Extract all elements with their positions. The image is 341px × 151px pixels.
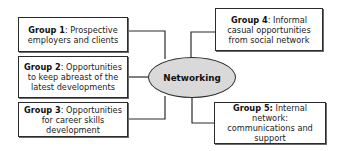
group-5-title: Group 5: (233, 103, 273, 113)
connector-group-3 (127, 96, 165, 119)
group-5-box: Group 5: Internal network: communication… (214, 102, 326, 144)
group-3-text: Group 3: Opportunities for career skills… (22, 105, 124, 135)
group-4-title: Group 4 (231, 15, 268, 25)
connector-group-5 (192, 98, 214, 123)
group-3-title: Group 3 (24, 105, 61, 115)
group-1-title: Group 1 (28, 25, 65, 35)
group-1-box: Group 1: Prospective employers and clien… (18, 17, 128, 52)
center-label: Networking (163, 73, 220, 83)
connector-group-1 (127, 31, 165, 59)
group-1-text: Group 1: Prospective employers and clien… (22, 25, 124, 45)
connector-group-4 (191, 32, 215, 57)
group-4-text: Group 4: Informal casual opportunities f… (219, 15, 319, 45)
center-node-networking: Networking (148, 57, 236, 98)
group-2-text: Group 2: Opportunities to keep abreast o… (22, 62, 124, 92)
group-3-box: Group 3: Opportunities for career skills… (18, 102, 128, 137)
group-2-box: Group 2: Opportunities to keep abreast o… (18, 56, 128, 98)
group-5-text: Group 5: Internal network: communication… (218, 103, 322, 143)
group-4-box: Group 4: Informal casual opportunities f… (215, 8, 323, 51)
networking-diagram: Group 1: Prospective employers and clien… (0, 0, 341, 151)
group-2-title: Group 2 (24, 62, 61, 72)
